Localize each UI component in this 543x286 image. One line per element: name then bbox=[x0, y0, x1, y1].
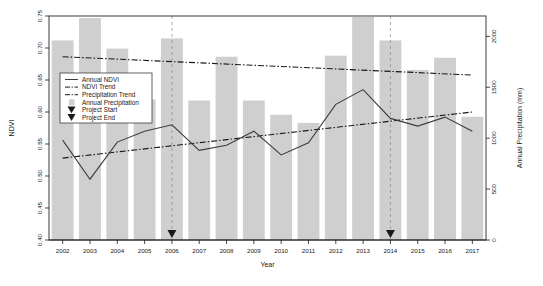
precipitation-bar bbox=[188, 101, 210, 240]
x-tick-label: 2003 bbox=[83, 247, 97, 254]
precipitation-bar bbox=[79, 18, 101, 240]
y-left-tick-label: 0.50 bbox=[36, 169, 43, 182]
x-tick-label: 2014 bbox=[384, 247, 398, 254]
precipitation-bar bbox=[434, 58, 456, 240]
y-left-tick-label: 0.70 bbox=[36, 41, 43, 54]
y-left-tick-label: 0.55 bbox=[36, 137, 43, 150]
chart-canvas: 0.400.450.500.550.600.650.700.75NDVI0500… bbox=[0, 0, 543, 286]
x-tick-label: 2006 bbox=[165, 247, 179, 254]
x-tick-label: 2010 bbox=[274, 247, 288, 254]
x-tick-label: 2009 bbox=[247, 247, 261, 254]
x-tick-label: 2016 bbox=[438, 247, 452, 254]
y-right-tick-label: 2000 bbox=[490, 29, 497, 43]
legend-item-label: Annual NDVI bbox=[82, 76, 119, 83]
x-tick-label: 2015 bbox=[411, 247, 425, 254]
x-axis-title: Year bbox=[260, 261, 275, 268]
legend-item-label: NDVI Trend bbox=[82, 83, 116, 90]
precipitation-bar bbox=[352, 17, 374, 240]
y-left-tick-label: 0.65 bbox=[36, 73, 43, 86]
y-left-tick-label: 0.40 bbox=[36, 233, 43, 246]
y-left-tick-label: 0.75 bbox=[36, 9, 43, 22]
x-tick-label: 2013 bbox=[356, 247, 370, 254]
x-tick-label: 2004 bbox=[110, 247, 124, 254]
precipitation-bar bbox=[243, 101, 265, 240]
legend-item-label: Project End bbox=[82, 114, 115, 122]
y-right-tick-label: 1500 bbox=[490, 80, 497, 94]
precipitation-bar bbox=[325, 56, 347, 240]
y-left-axis-title: NDVI bbox=[8, 120, 15, 137]
legend-marker-square bbox=[69, 99, 75, 105]
x-tick-label: 2017 bbox=[465, 247, 479, 254]
y-right-axis-title: Annual Precipitation (mm) bbox=[516, 88, 524, 169]
x-tick-label: 2012 bbox=[329, 247, 343, 254]
y-right-tick-label: 0 bbox=[490, 238, 497, 242]
x-tick-label: 2011 bbox=[302, 247, 316, 254]
precipitation-bar bbox=[461, 117, 483, 240]
x-tick-label: 2005 bbox=[138, 247, 152, 254]
precipitation-bar bbox=[216, 57, 238, 240]
y-left-tick-label: 0.45 bbox=[36, 201, 43, 214]
y-left-tick-label: 0.60 bbox=[36, 105, 43, 118]
x-tick-label: 2008 bbox=[220, 247, 234, 254]
y-right-tick-label: 1000 bbox=[490, 131, 497, 145]
x-tick-label: 2007 bbox=[192, 247, 206, 254]
precipitation-bar bbox=[407, 70, 429, 240]
precipitation-bar bbox=[298, 123, 320, 240]
x-tick-label: 2002 bbox=[56, 247, 70, 254]
chart-figure: 0.400.450.500.550.600.650.700.75NDVI0500… bbox=[0, 0, 543, 286]
y-right-tick-label: 500 bbox=[490, 183, 497, 194]
